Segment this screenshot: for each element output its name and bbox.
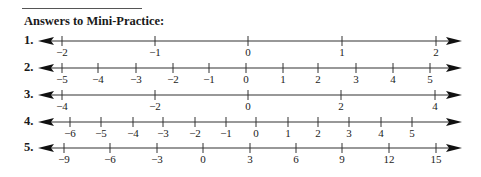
number-line-5: −9−6−303691215 <box>38 143 462 165</box>
tick-label: 4 <box>378 127 384 139</box>
tick-label: 1 <box>285 127 291 139</box>
tick-label: −9 <box>58 153 70 165</box>
tick-label: 2 <box>433 46 439 58</box>
number-line-2: −5−4−3−2−1012345 <box>38 63 462 85</box>
tick-label: −4 <box>127 127 139 139</box>
tick-label: 0 <box>200 153 206 165</box>
tick-label: 0 <box>245 100 251 112</box>
tick-label: 0 <box>253 127 259 139</box>
tick-label: −2 <box>56 46 68 58</box>
tick-label: 3 <box>247 153 253 165</box>
tick-label: −3 <box>151 153 163 165</box>
number-line-3: −4−2024 <box>38 90 462 112</box>
tick-label: 2 <box>315 73 321 85</box>
tick-label: −2 <box>189 127 201 139</box>
tick-label: −6 <box>104 153 116 165</box>
tick-label: −3 <box>130 73 142 85</box>
tick-label: 12 <box>384 153 395 165</box>
tick-label: −1 <box>203 73 215 85</box>
tick-label: −4 <box>92 73 104 85</box>
tick-label: 9 <box>339 153 345 165</box>
number-line-1: −2−1012 <box>38 36 462 58</box>
tick-label: −2 <box>149 100 161 112</box>
tick-label: 4 <box>432 100 438 112</box>
tick-label: 1 <box>339 46 345 58</box>
tick-label: −1 <box>220 127 232 139</box>
tick-label: −6 <box>64 127 76 139</box>
tick-label: −5 <box>56 73 68 85</box>
tick-label: −3 <box>157 127 169 139</box>
tick-label: 6 <box>293 153 299 165</box>
tick-label: 15 <box>431 153 443 165</box>
tick-label: 0 <box>245 46 251 58</box>
number-lines: −2−1012−5−4−3−2−1012345−4−2024−6−5−4−3−2… <box>0 0 481 177</box>
tick-label: 2 <box>338 100 344 112</box>
tick-label: 0 <box>243 73 249 85</box>
tick-label: −5 <box>95 127 107 139</box>
tick-label: 3 <box>353 73 359 85</box>
tick-label: 3 <box>346 127 352 139</box>
tick-label: 5 <box>409 127 415 139</box>
tick-label: 1 <box>280 73 286 85</box>
tick-label: 5 <box>427 73 433 85</box>
tick-label: 4 <box>390 73 396 85</box>
tick-label: −4 <box>56 100 68 112</box>
tick-label: 2 <box>315 127 321 139</box>
tick-label: −1 <box>149 46 161 58</box>
number-line-4: −6−5−4−3−2−1012345 <box>38 117 462 139</box>
tick-label: −2 <box>167 73 179 85</box>
